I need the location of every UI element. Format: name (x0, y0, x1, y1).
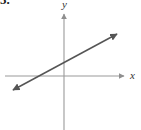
y-axis-label: y (62, 0, 67, 10)
graph-figure: 5. y x (0, 0, 141, 130)
x-axis-label: x (130, 70, 135, 81)
coordinate-plane-graphic (0, 0, 141, 130)
plotted-line (13, 34, 117, 90)
